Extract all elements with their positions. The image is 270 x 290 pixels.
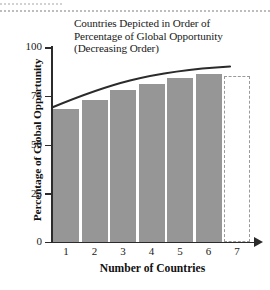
x-axis-line (51, 242, 256, 244)
x-axis-arrowhead-icon (254, 237, 263, 247)
bar-7-projected (224, 76, 250, 241)
x-axis-title: Number of Countries (45, 262, 260, 275)
chart-figure: Countries Depicted in Order of Percentag… (0, 0, 270, 290)
bar-1 (53, 109, 79, 241)
bar-3 (110, 90, 136, 242)
x-tick-label-4: 4 (140, 245, 164, 257)
x-tick-label-2: 2 (83, 245, 107, 257)
y-tick-label-0: 0 (2, 235, 42, 247)
y-axis-line (51, 46, 53, 243)
x-tick-label-5: 5 (168, 245, 192, 257)
bar-4 (139, 84, 165, 242)
x-tick-label-1: 1 (54, 245, 78, 257)
y-tick-label-100: 100 (2, 40, 42, 52)
y-tick-label-50: 50 (2, 138, 42, 150)
bar-6 (196, 74, 222, 241)
x-tick-label-7: 7 (225, 245, 249, 257)
x-tick-label-6: 6 (197, 245, 221, 257)
y-tick-label-25: 25 (2, 187, 42, 199)
x-tick-label-3: 3 (111, 245, 135, 257)
bar-5 (167, 78, 193, 242)
bar-2 (82, 100, 108, 242)
plot-area: 100 75 50 25 0 1 2 3 4 5 6 7 (0, 0, 270, 290)
y-tick-label-75: 75 (2, 89, 42, 101)
